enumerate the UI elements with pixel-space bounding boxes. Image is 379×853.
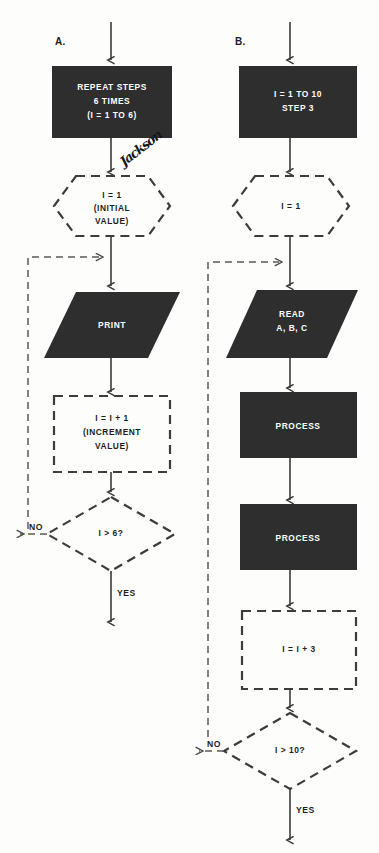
panel-a-init-line3: VALUE) [95, 216, 129, 226]
flowchart-svg: A. REPEAT STEPS 6 TIMES (I = 1 TO 6) I =… [0, 0, 379, 853]
panel-b-decision-label: I > 10? [275, 745, 305, 755]
panel-a-body-label: PRINT [98, 320, 126, 330]
panel-a-no-label: NO [29, 522, 43, 532]
panel-b-process-one-label: PROCESS [276, 421, 321, 431]
panel-b-loop-header-line1: I = 1 TO 10 [274, 89, 322, 99]
panel-b-read-line1: READ [279, 309, 305, 319]
panel-a-init-line1: I = 1 [102, 190, 121, 200]
panel-b-increment-label: I = I + 3 [282, 644, 315, 654]
panel-b-loop-header-line2: STEP 3 [282, 103, 314, 113]
panel-a-decision-label: I > 6? [99, 528, 124, 538]
panel-b-read-line2: A, B, C [276, 323, 307, 333]
panel-b-yes-label: YES [296, 805, 315, 815]
flowchart-canvas: A. REPEAT STEPS 6 TIMES (I = 1 TO 6) I =… [0, 0, 379, 853]
panel-b-letter: B. [235, 36, 246, 47]
panel-a-letter: A. [55, 36, 66, 47]
panel-a-loop-header-line3: (I = 1 TO 6) [87, 110, 137, 120]
panel-a-loop-header-line1: REPEAT STEPS [77, 82, 147, 92]
panel-a-increment-line1: I = I + 1 [95, 413, 128, 423]
panel-b-no-label: NO [207, 739, 221, 749]
panel-b-init-label: I = 1 [281, 201, 300, 211]
panel-a-init-line2: (INITIAL [94, 203, 131, 213]
panel-a-loop-header-line2: 6 TIMES [94, 96, 130, 106]
panel-b-process-two-label: PROCESS [276, 533, 321, 543]
panel-a-increment-line3: VALUE) [95, 441, 129, 451]
panel-b-loop-header-shape [239, 66, 357, 138]
panel-a-yes-label: YES [117, 588, 136, 598]
panel-a-increment-line2: (INCREMENT [83, 427, 141, 437]
